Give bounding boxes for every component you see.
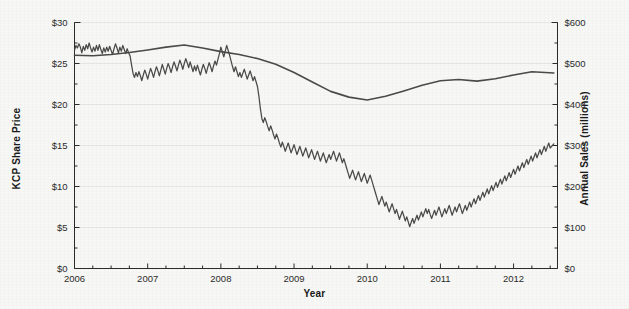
series-annual-sales-line [75, 45, 554, 100]
y-axis-left-title: KCP Share Price [11, 89, 22, 209]
svg-text:$100: $100 [565, 222, 586, 233]
svg-text:$500: $500 [565, 58, 586, 69]
chart-canvas: $0$5$10$15$20$25$30$0$100$200$300$400$50… [0, 0, 629, 309]
svg-text:$600: $600 [565, 17, 586, 28]
svg-text:2007: 2007 [137, 273, 158, 284]
svg-text:2011: 2011 [430, 273, 450, 284]
svg-text:$20: $20 [52, 99, 68, 110]
svg-text:$15: $15 [52, 140, 68, 151]
chart-figure: $0$5$10$15$20$25$30$0$100$200$300$400$50… [0, 0, 629, 309]
svg-text:$10: $10 [52, 181, 68, 192]
series-kcp-share-price-line [75, 43, 554, 227]
x-axis-title: Year [0, 288, 629, 299]
svg-text:$0: $0 [565, 263, 576, 274]
svg-text:2010: 2010 [357, 273, 378, 284]
svg-text:2008: 2008 [210, 273, 231, 284]
svg-text:2012: 2012 [503, 273, 524, 284]
svg-text:2009: 2009 [283, 273, 304, 284]
y-axis-right-title: Annual Sales (millions) [579, 89, 590, 209]
svg-text:$5: $5 [57, 222, 68, 233]
svg-text:$25: $25 [52, 58, 68, 69]
svg-text:2006: 2006 [64, 273, 85, 284]
svg-text:$30: $30 [52, 17, 68, 28]
tick-labels: $0$5$10$15$20$25$30$0$100$200$300$400$50… [52, 17, 586, 284]
